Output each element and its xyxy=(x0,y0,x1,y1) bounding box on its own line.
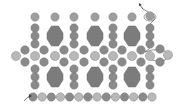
round-bead xyxy=(11,51,20,60)
round-bead xyxy=(146,65,154,73)
round-bead xyxy=(69,51,78,60)
round-bead xyxy=(109,32,117,40)
round-bead xyxy=(146,12,154,20)
round-bead xyxy=(109,40,117,48)
round-bead xyxy=(31,73,39,81)
round-bead xyxy=(109,24,117,32)
round-bead xyxy=(100,46,109,55)
round-bead xyxy=(56,93,64,101)
round-bead xyxy=(118,46,127,55)
round-bead xyxy=(75,93,83,101)
round-bead xyxy=(90,51,99,60)
round-bead xyxy=(91,13,99,21)
round-bead xyxy=(51,13,59,21)
large-hex-bead xyxy=(124,67,140,87)
round-bead xyxy=(50,51,59,60)
round-bead xyxy=(38,93,46,101)
round-bead xyxy=(156,45,165,54)
round-bead xyxy=(137,46,146,55)
round-bead xyxy=(120,93,128,101)
round-bead xyxy=(156,58,165,67)
round-bead xyxy=(146,40,154,48)
round-bead xyxy=(21,58,30,67)
round-bead xyxy=(30,51,39,60)
round-bead xyxy=(80,46,89,55)
round-bead xyxy=(70,81,78,89)
round-bead xyxy=(109,13,117,21)
round-bead xyxy=(60,58,69,67)
round-bead xyxy=(70,65,78,73)
round-bead xyxy=(40,46,49,55)
round-bead xyxy=(102,93,110,101)
round-bead xyxy=(148,93,156,101)
round-bead xyxy=(108,51,117,60)
round-bead xyxy=(128,13,136,21)
end-arrow-shaft xyxy=(140,5,143,9)
round-bead xyxy=(31,24,39,32)
round-bead xyxy=(70,40,78,48)
round-bead xyxy=(145,51,154,60)
round-bead xyxy=(146,24,154,32)
round-bead xyxy=(146,73,154,81)
round-bead xyxy=(31,40,39,48)
bead-layer xyxy=(11,12,172,101)
beadwork-pattern-diagram xyxy=(0,0,183,111)
round-bead xyxy=(139,93,147,101)
round-bead xyxy=(47,93,55,101)
round-bead xyxy=(70,24,78,32)
round-bead xyxy=(31,13,39,21)
large-hex-bead xyxy=(87,67,103,87)
round-bead xyxy=(21,46,30,55)
round-bead xyxy=(70,13,78,21)
round-bead xyxy=(129,93,137,101)
round-bead xyxy=(146,81,154,89)
round-bead xyxy=(137,58,146,67)
large-hex-bead xyxy=(47,67,63,87)
large-hex-bead xyxy=(87,26,103,46)
round-bead xyxy=(31,65,39,73)
round-bead xyxy=(109,73,117,81)
round-bead xyxy=(163,50,172,59)
round-bead xyxy=(60,46,69,55)
large-hex-bead xyxy=(124,26,140,46)
round-bead xyxy=(31,32,39,40)
round-bead xyxy=(93,93,101,101)
large-hex-bead xyxy=(47,26,63,46)
round-bead xyxy=(70,73,78,81)
round-bead xyxy=(100,58,109,67)
round-bead xyxy=(31,81,39,89)
round-bead xyxy=(109,81,117,89)
round-bead xyxy=(109,65,117,73)
round-bead xyxy=(70,32,78,40)
round-bead xyxy=(84,93,92,101)
round-bead xyxy=(146,32,154,40)
round-bead xyxy=(127,51,136,60)
round-bead xyxy=(65,93,73,101)
round-bead xyxy=(111,93,119,101)
round-bead xyxy=(40,58,49,67)
round-bead xyxy=(118,58,127,67)
round-bead xyxy=(80,58,89,67)
